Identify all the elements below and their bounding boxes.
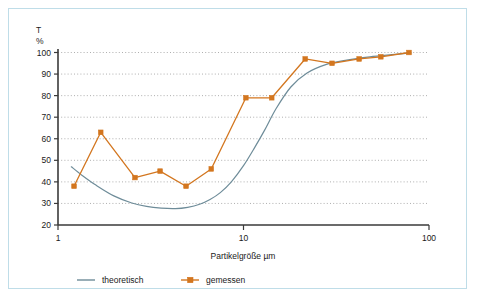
data-point-marker xyxy=(244,95,249,100)
legend-label-gemessen: gemessen xyxy=(206,275,245,285)
data-point-marker xyxy=(303,57,308,62)
y-tick-label: 90 xyxy=(42,69,52,79)
grid-lines xyxy=(58,53,429,204)
chart-legend: theoretischgemessen xyxy=(77,275,245,285)
data-point-marker xyxy=(330,61,335,66)
data-point-marker xyxy=(357,57,362,62)
data-point-marker xyxy=(158,169,163,174)
y-tick-label: 40 xyxy=(42,177,52,187)
data-point-marker xyxy=(407,50,412,55)
x-axis-ticks: 110100 xyxy=(56,225,437,243)
y-tick-label: 50 xyxy=(42,155,52,165)
y-tick-label: 70 xyxy=(42,112,52,122)
axes xyxy=(58,49,429,225)
data-point-marker xyxy=(379,55,384,60)
chart-figure: 2030405060708090100 110100 T % Partikelg… xyxy=(9,9,468,290)
y-axis-unit: % xyxy=(36,36,44,46)
y-tick-label: 30 xyxy=(42,198,52,208)
y-tick-label: 60 xyxy=(42,134,52,144)
legend-swatch-marker-gemessen xyxy=(188,277,193,282)
y-tick-label: 20 xyxy=(42,220,52,230)
x-axis-title: Partikelgröße µm xyxy=(211,251,276,261)
x-tick-label: 100 xyxy=(422,233,436,243)
data-point-marker xyxy=(72,184,77,189)
legend-label-theoretisch: theoretisch xyxy=(102,275,144,285)
transmission-vs-particle-size-chart: 2030405060708090100 110100 T % Partikelg… xyxy=(9,9,468,290)
series-line-theoretisch xyxy=(71,53,411,209)
y-axis-title: T xyxy=(36,25,41,35)
series-line-gemessen xyxy=(74,53,409,187)
data-point-marker xyxy=(133,175,138,180)
x-tick-label: 1 xyxy=(56,233,61,243)
data-point-marker xyxy=(209,167,214,172)
y-axis-ticks: 2030405060708090100 xyxy=(37,48,58,231)
data-point-marker xyxy=(184,184,189,189)
x-tick-label: 10 xyxy=(239,233,249,243)
y-tick-label: 80 xyxy=(42,91,52,101)
data-point-marker xyxy=(98,130,103,135)
y-tick-label: 100 xyxy=(37,48,51,58)
data-point-marker xyxy=(269,95,274,100)
figure-frame: 2030405060708090100 110100 T % Partikelg… xyxy=(8,8,467,289)
